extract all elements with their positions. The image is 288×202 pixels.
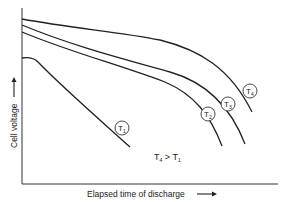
label-t3: T3 (221, 97, 235, 111)
curve-t1 (22, 57, 130, 147)
label-t2: T2 (201, 107, 215, 121)
x-axis-label: Elapsed time of discharge (87, 189, 185, 199)
x-axis-arrowhead-icon (212, 192, 217, 197)
temperature-annotation: T4 > T1 (154, 152, 181, 163)
y-axis-label: Cell voltage (9, 103, 19, 148)
curve-t4 (22, 19, 252, 112)
label-t1: T1 (115, 121, 129, 135)
y-axis-arrowhead-icon (12, 77, 17, 82)
discharge-curve-chart: T1 T2 T3 T4 T4 > T1 Elapsed time of disc… (0, 0, 288, 202)
curve-t3 (22, 25, 245, 144)
label-t4: T4 (243, 84, 257, 98)
